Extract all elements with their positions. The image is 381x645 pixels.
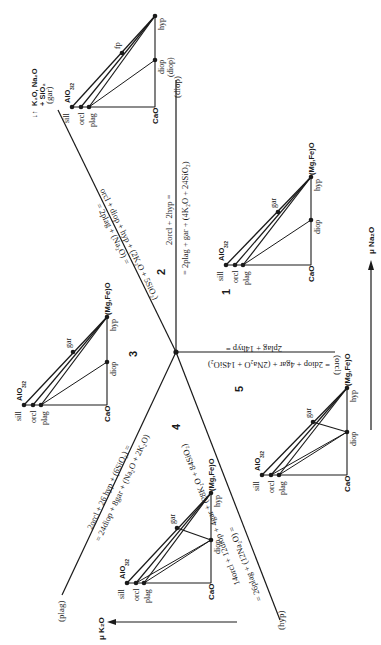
reaction-diop-line2: = 2plag + gar + (4K₂O + 24SiO₂) bbox=[180, 161, 190, 275]
label-hyp: hyp bbox=[349, 390, 358, 402]
phase-point bbox=[79, 105, 84, 110]
field-number-1: 1 bbox=[220, 289, 232, 295]
label-alo-subscript: 3/2 bbox=[124, 559, 130, 566]
phase-point bbox=[71, 350, 76, 355]
reaction-diop-line1: 2orcl + 2hyp = bbox=[164, 194, 174, 245]
label-diop: diop bbox=[313, 220, 322, 234]
reaction-orcl: 2plag + 14hyp = = 2diop + 4gar + (2Na₂O … bbox=[208, 344, 330, 370]
mobile-components-note: ↓↑ K₂O, Na₂O + SiO₂ bbox=[30, 68, 47, 118]
tie-orcl-hyp bbox=[136, 493, 211, 583]
arrow-up-icon bbox=[368, 260, 374, 270]
label-plag: plag bbox=[242, 271, 251, 285]
label-alo: AlO bbox=[118, 566, 127, 580]
triangle-field-1: sillorclplagCaOdiophypgarAlO3/2(Mg,Fe)O bbox=[216, 142, 322, 285]
triangle-hypotenuse bbox=[24, 317, 107, 405]
label-absent-diop: (diop) bbox=[172, 76, 182, 98]
label-alo-subscript: 3/2 bbox=[69, 83, 75, 90]
phase-point bbox=[277, 473, 282, 478]
triangle-field-2: sillorclplagCaOdiophypfpAlO3/2(diop) bbox=[62, 14, 175, 127]
label-cao: CaO bbox=[103, 406, 112, 422]
label-mgfeo: (Mg,Fe)O bbox=[307, 142, 316, 175]
tie-plag-hyp bbox=[89, 16, 155, 107]
arrow-left-icon bbox=[107, 619, 116, 625]
label-hyp: hyp bbox=[157, 18, 166, 30]
phase-point bbox=[260, 473, 265, 478]
label-mgfeo: (Mg,Fe)O bbox=[343, 353, 352, 386]
label-absent-orcl: (orcl) bbox=[333, 355, 343, 375]
phase-point bbox=[22, 403, 27, 408]
label-sill: sill bbox=[62, 112, 71, 123]
tie-plag-hyp bbox=[144, 493, 211, 583]
label-orcl: orcl bbox=[231, 270, 240, 283]
phase-point bbox=[120, 51, 125, 56]
label-plag: plag bbox=[278, 481, 287, 495]
tie-plag-hyp bbox=[243, 177, 311, 265]
label-plag: plag bbox=[40, 411, 49, 425]
label-orcl: orcl bbox=[77, 112, 86, 125]
axis-mu-na2o: μ Na₂O bbox=[367, 227, 376, 430]
label-cao: CaO bbox=[307, 266, 316, 282]
label-alo-subscript: 3/2 bbox=[223, 241, 229, 248]
label-orcl: orcl bbox=[267, 480, 276, 493]
tie-plag-diop bbox=[243, 220, 311, 265]
schreinemakers-diagram: (gar) (diop) (orcl) (hyp) (plag) orcl + … bbox=[0, 0, 381, 645]
label-alo: AlO bbox=[15, 388, 24, 402]
tie-orcl-hyp bbox=[81, 16, 155, 107]
label-plag: plag bbox=[88, 113, 97, 127]
label-sill: sill bbox=[216, 270, 225, 281]
reaction-hyp: 14orcl + 12diop + 4gar + (28K₂O + 84SiO₂… bbox=[178, 442, 263, 602]
phase-point bbox=[153, 14, 158, 19]
tie-gar-diop bbox=[177, 528, 211, 540]
label-sill: sill bbox=[252, 480, 261, 491]
phase-point bbox=[39, 403, 44, 408]
axis-label-mu-k2o: μ K₂O bbox=[97, 617, 106, 640]
label-sill: sill bbox=[117, 588, 126, 599]
field-number-4: 4 bbox=[170, 423, 182, 430]
triangle-field-3: sillorclplagCaOdiophypgarAlO3/2(Mg,Fe)O bbox=[14, 282, 118, 425]
phase-point bbox=[134, 581, 139, 586]
triangle-hypotenuse bbox=[226, 177, 311, 265]
tie-plag-diop bbox=[89, 60, 155, 107]
tie-plag-hyp bbox=[41, 317, 107, 405]
phase-point bbox=[224, 263, 229, 268]
label-mgfeo: (Mg,Fe)O bbox=[103, 282, 112, 315]
label-cao: CaO bbox=[343, 476, 352, 492]
label-absent-hyp: (hyp) bbox=[276, 611, 286, 631]
label-alo-subscript: 3/2 bbox=[259, 451, 265, 458]
tie-plag-hyp bbox=[279, 388, 347, 475]
label-gar: gar bbox=[269, 197, 278, 208]
axis-label-mu-na2o: μ Na₂O bbox=[367, 227, 376, 254]
label-orcl: orcl bbox=[132, 588, 141, 601]
label-diop: diop bbox=[213, 540, 222, 554]
label-fp: fp bbox=[113, 42, 122, 49]
label-diop: diop bbox=[157, 60, 166, 74]
label-hyp: hyp bbox=[313, 179, 322, 191]
field-number-5: 5 bbox=[233, 386, 245, 392]
phase-point bbox=[142, 581, 147, 586]
label-cao: CaO bbox=[207, 584, 216, 600]
label-alo: AlO bbox=[217, 248, 226, 262]
reaction-orcl-line2: = 2diop + 4gar + (2Na₂O + 14SiO₂) bbox=[208, 360, 330, 370]
field-number-2: 2 bbox=[155, 269, 167, 275]
arrows-icon: ↓↑ bbox=[30, 111, 39, 119]
label-alo: AlO bbox=[63, 90, 72, 104]
label-mgfeo: (Mg,Fe)O bbox=[207, 458, 216, 491]
tie-orcl-hyp bbox=[33, 317, 107, 405]
label-gar: gar bbox=[168, 513, 177, 524]
triangle-field-4: sillorclplagCaOdiophypgarAlO3/2(Mg,Fe)O bbox=[117, 458, 222, 603]
label-absent-plag: (plag) bbox=[56, 601, 66, 623]
field-number-3: 3 bbox=[127, 351, 139, 357]
line-hyp-absent bbox=[176, 352, 280, 620]
label-alo: AlO bbox=[253, 458, 262, 472]
compatibility-triangles: sillorclplagCaOdiophypfpAlO3/2(diop)sill… bbox=[14, 14, 358, 603]
phase-point bbox=[87, 105, 92, 110]
label-gar: gar bbox=[64, 337, 73, 348]
phase-point bbox=[311, 420, 316, 425]
label-diop-absent: (diop) bbox=[166, 57, 175, 77]
reaction-plag: 2orcl + 26 hyp + (6SiO₂) = = 24diop + 8g… bbox=[85, 432, 152, 542]
phase-point bbox=[269, 473, 274, 478]
phase-point bbox=[31, 403, 36, 408]
phase-point bbox=[241, 263, 246, 268]
label-diop: diop bbox=[349, 432, 358, 446]
label-alo-subscript: 3/2 bbox=[21, 381, 27, 388]
